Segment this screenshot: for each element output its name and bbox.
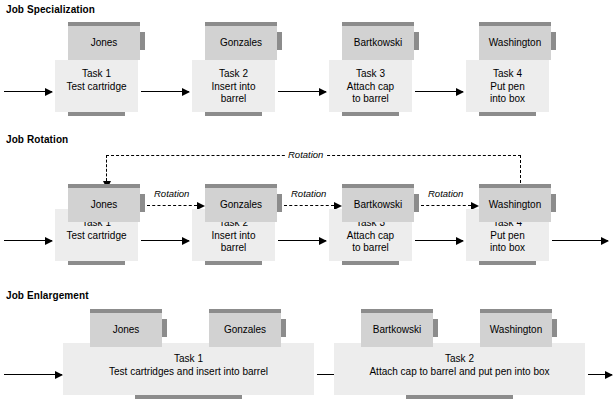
task-box-s1-2: Task 2 Insert into barrel	[192, 60, 275, 112]
task-box-s1-1: Task 1 Test cartridge	[55, 60, 138, 112]
task-bottom-bar-s1-4	[479, 112, 536, 116]
rotation-label-loop: Rotation	[286, 149, 325, 160]
section-heading-job-specialization: Job Specialization	[6, 4, 95, 15]
person-box-s2-bartkowski: Bartkowski	[342, 188, 414, 222]
rotation-label-s2-3: Rotation	[426, 188, 465, 199]
flow-arrow-s1-2-3	[278, 91, 326, 92]
person-side-tab-icon	[414, 194, 419, 212]
person-top-bar-icon	[361, 309, 433, 313]
task-text-s2-3: Task 3 Attach cap to barrel	[329, 217, 412, 255]
person-top-bar-icon	[209, 309, 281, 313]
rotation-arrow-s2-1-2	[147, 205, 197, 206]
task-bottom-bar-s3-2	[406, 395, 513, 399]
rotation-arrow-s2-3-4	[421, 205, 471, 206]
task-text-s2-2: Task 2 Insert into barrel	[192, 217, 275, 255]
task-box-s3-2: Task 2 Attach cap to barrel and put pen …	[334, 343, 585, 395]
person-box-s2-gonzales: Gonzales	[205, 188, 277, 222]
person-name-s2-4: Washington	[479, 199, 551, 210]
task-bottom-bar-s2-3	[342, 261, 399, 265]
task-bottom-bar-s2-2	[205, 261, 262, 265]
person-side-tab-icon	[414, 32, 419, 50]
person-name-s1-2: Gonzales	[205, 37, 277, 48]
person-name-s3-1: Jones	[90, 324, 162, 335]
task-text-s3-2: Task 2 Attach cap to barrel and put pen …	[334, 353, 585, 378]
person-name-s1-3: Bartkowski	[342, 37, 414, 48]
person-side-tab-icon	[281, 319, 286, 337]
person-side-tab-icon	[162, 319, 167, 337]
flow-arrow-s2-1-2	[141, 240, 189, 241]
person-side-tab-icon	[277, 194, 282, 212]
rotation-label-s2-2: Rotation	[289, 188, 328, 199]
task-text-s2-4: Task 4 Put pen into box	[466, 217, 549, 255]
task-box-s1-3: Task 3 Attach cap to barrel	[329, 60, 412, 112]
task-bottom-bar-s2-4	[479, 261, 536, 265]
person-box-s3-gonzales: Gonzales	[209, 313, 281, 347]
rotation-label-s2-1: Rotation	[152, 188, 191, 199]
person-top-bar-icon	[68, 184, 140, 188]
flow-arrow-out-s3	[588, 374, 612, 375]
task-text-s1-1: Task 1 Test cartridge	[55, 68, 138, 93]
person-box-s3-bartkowski: Bartkowski	[361, 313, 433, 347]
person-box-s2-jones: Jones	[68, 188, 140, 222]
task-text-s1-4: Task 4 Put pen into box	[466, 68, 549, 106]
person-side-tab-icon	[277, 32, 282, 50]
rotation-arrow-s2-2-3	[284, 205, 334, 206]
rotation-loop-left-drop	[106, 155, 107, 181]
person-box-s1-gonzales: Gonzales	[205, 26, 277, 60]
person-top-bar-icon	[205, 184, 277, 188]
flow-arrow-s1-3-4	[415, 91, 463, 92]
task-text-s1-3: Task 3 Attach cap to barrel	[329, 68, 412, 106]
diagram-canvas: Job Specialization Task 1 Test cartridge…	[0, 0, 616, 402]
person-name-s2-3: Bartkowski	[342, 199, 414, 210]
person-box-s1-washington: Washington	[479, 26, 551, 60]
person-top-bar-icon	[479, 184, 551, 188]
task-bottom-bar-s1-2	[205, 112, 262, 116]
person-top-bar-icon	[479, 22, 551, 26]
person-box-s3-washington: Washington	[480, 313, 552, 347]
person-box-s1-bartkowski: Bartkowski	[342, 26, 414, 60]
person-top-bar-icon	[68, 22, 140, 26]
person-box-s1-jones: Jones	[68, 26, 140, 60]
task-box-s1-4: Task 4 Put pen into box	[466, 60, 549, 112]
person-top-bar-icon	[342, 22, 414, 26]
flow-arrow-s1-1-2	[141, 91, 189, 92]
task-text-s3-1: Task 1 Test cartridges and insert into b…	[63, 353, 314, 378]
person-top-bar-icon	[480, 309, 552, 313]
person-name-s1-1: Jones	[68, 37, 140, 48]
person-name-s2-2: Gonzales	[205, 199, 277, 210]
section-heading-job-rotation: Job Rotation	[6, 134, 68, 145]
flow-arrow-out-s2	[552, 240, 608, 241]
flow-arrow-s2-3-4	[415, 240, 463, 241]
task-text-s1-2: Task 2 Insert into barrel	[192, 68, 275, 106]
person-top-bar-icon	[90, 309, 162, 313]
task-bottom-bar-s2-1	[68, 261, 125, 265]
task-bottom-bar-s1-3	[342, 112, 399, 116]
person-name-s3-2: Gonzales	[209, 324, 281, 335]
person-name-s2-1: Jones	[68, 199, 140, 210]
flow-arrow-in-s3	[4, 374, 62, 375]
flow-arrow-s2-2-3	[278, 240, 326, 241]
person-top-bar-icon	[205, 22, 277, 26]
flow-arrow-in-s1	[4, 91, 52, 92]
person-side-tab-icon	[140, 32, 145, 50]
person-side-tab-icon	[551, 194, 556, 212]
task-bottom-bar-s3-1	[135, 395, 242, 399]
flow-arrow-in-s2	[4, 240, 52, 241]
person-box-s3-jones: Jones	[90, 313, 162, 347]
person-box-s2-washington: Washington	[479, 188, 551, 222]
task-bottom-bar-s1-1	[68, 112, 125, 116]
person-side-tab-icon	[552, 319, 557, 337]
person-name-s1-4: Washington	[479, 37, 551, 48]
person-top-bar-icon	[342, 184, 414, 188]
task-box-s3-1: Task 1 Test cartridges and insert into b…	[63, 343, 314, 395]
person-side-tab-icon	[140, 194, 145, 212]
person-name-s3-4: Washington	[480, 324, 552, 335]
person-side-tab-icon	[551, 32, 556, 50]
person-name-s3-3: Bartkowski	[361, 324, 433, 335]
section-heading-job-enlargement: Job Enlargement	[6, 290, 89, 301]
person-side-tab-icon	[433, 319, 438, 337]
